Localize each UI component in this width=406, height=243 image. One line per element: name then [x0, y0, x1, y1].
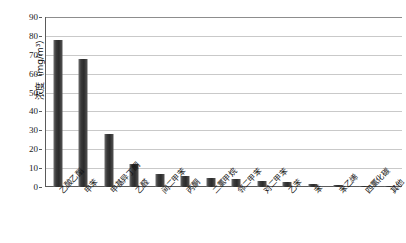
bar-slot: [45, 17, 71, 187]
bar-chart: 0102030405060708090 浓度（mg/m³） 乙酸乙酯甲苯甲基异丁…: [0, 9, 404, 243]
bar-slot: [249, 17, 275, 187]
bar[interactable]: [104, 134, 113, 187]
bar-slot: [326, 17, 352, 187]
bar-slot: [147, 17, 173, 187]
bar-slot: [96, 17, 122, 187]
y-tick-mark-90: [39, 17, 42, 18]
y-tick-mark-20: [39, 149, 42, 150]
bar-slot: [275, 17, 301, 187]
bar-slot: [351, 17, 377, 187]
bar-slot: [224, 17, 250, 187]
y-tick-label-20: 20: [29, 145, 38, 154]
y-tick-mark-30: [39, 130, 42, 131]
bar-slot: [300, 17, 326, 187]
y-tick-mark-0: [39, 187, 42, 188]
x-axis-category-labels: 乙酸乙酯甲苯甲基异丁酮乙醛间二甲苯丙酮二氯甲烷邻二甲苯对二甲苯乙苯苯苯乙烯四氯化…: [45, 188, 402, 243]
y-tick-mark-10: [39, 168, 42, 169]
y-tick-label-30: 30: [29, 126, 38, 135]
y-axis-title: 浓度（mg/m³）: [33, 23, 46, 113]
bar-series: [45, 17, 402, 187]
top-caption-strip: [0, 0, 404, 9]
bar[interactable]: [53, 40, 62, 187]
y-tick-label-10: 10: [29, 164, 38, 173]
bar-slot: [198, 17, 224, 187]
y-tick-label-0: 0: [34, 183, 39, 192]
bar-slot: [377, 17, 403, 187]
y-tick-label-90: 90: [29, 13, 38, 22]
bar-slot: [173, 17, 199, 187]
bar-slot: [71, 17, 97, 187]
